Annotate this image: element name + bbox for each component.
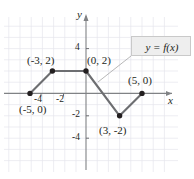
function-callout-box: y = f(x) xyxy=(131,36,191,56)
function-callout-label: y = f(x) xyxy=(132,37,192,57)
data-point xyxy=(27,91,32,96)
data-point xyxy=(50,68,55,73)
data-point xyxy=(117,113,122,118)
graph-figure: y x 4 -2 -4 -4 -2 (-5, 0) (-3, 2) (0, 2)… xyxy=(0,0,194,179)
y-tick-minus2: -2 xyxy=(72,109,80,119)
point-label-0-2: (0, 2) xyxy=(87,54,111,66)
point-label-minus3-2: (-3, 2) xyxy=(27,54,55,66)
x-tick-minus2: -2 xyxy=(56,94,64,104)
y-axis-label: y xyxy=(77,8,82,20)
y-tick-4: 4 xyxy=(75,42,80,52)
point-label-minus5-0: (-5, 0) xyxy=(19,103,47,115)
data-point xyxy=(139,91,144,96)
point-label-3-minus2: (3, -2) xyxy=(99,124,127,136)
data-point xyxy=(83,68,88,73)
coordinate-plane xyxy=(0,0,194,179)
x-axis-label: x xyxy=(168,94,173,106)
point-label-5-0: (5, 0) xyxy=(128,74,152,86)
y-tick-minus4: -4 xyxy=(72,132,80,142)
